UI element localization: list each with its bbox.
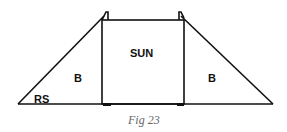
sun-label: SUN [130,47,153,59]
right-b-label: B [208,72,216,84]
diagram-figure: SUN B B RS Fig 23 [0,0,287,132]
sun-box [102,20,184,104]
right-slope [181,16,273,104]
left-slope [18,16,104,104]
left-b-label: B [74,72,82,84]
right-foot-mark [177,103,184,106]
left-foot-mark [103,103,111,106]
figure-caption: Fig 23 [127,113,160,127]
rs-label: RS [34,93,49,105]
